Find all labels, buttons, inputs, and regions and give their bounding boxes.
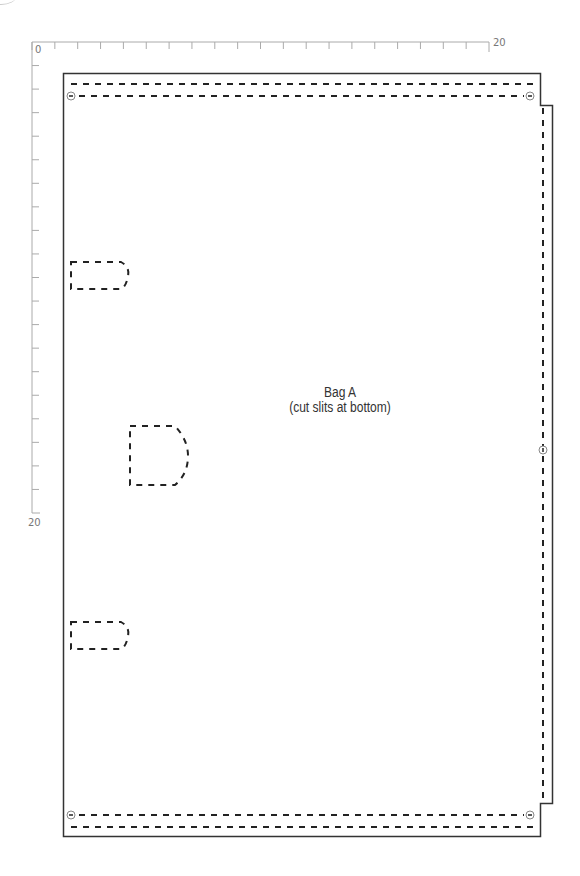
pattern-outline bbox=[64, 74, 553, 837]
bottom-stitch-lines bbox=[71, 815, 534, 827]
pattern-label: Bag A (cut slits at bottom) bbox=[271, 385, 409, 415]
ruler-h-end-label: 20 bbox=[493, 38, 506, 48]
marker-top-left-icon bbox=[67, 92, 75, 100]
pattern-canvas bbox=[0, 0, 580, 876]
placement-markers bbox=[67, 92, 547, 819]
pattern-title: Bag A bbox=[271, 385, 409, 400]
marker-top-right-icon bbox=[526, 92, 534, 100]
lower-small-slot bbox=[71, 622, 128, 649]
top-stitch-lines bbox=[71, 84, 534, 96]
horizontal-ruler bbox=[32, 42, 489, 52]
vertical-ruler bbox=[32, 42, 40, 513]
pattern-subtitle: (cut slits at bottom) bbox=[271, 400, 409, 415]
middle-large-slot bbox=[130, 426, 188, 485]
marker-right-middle-icon bbox=[539, 446, 547, 454]
upper-small-slot bbox=[71, 262, 128, 289]
marker-bottom-left-icon bbox=[67, 811, 75, 819]
marker-bottom-right-icon bbox=[526, 811, 534, 819]
ruler-h-start-label: 0 bbox=[35, 45, 41, 55]
ruler-v-end-label: 20 bbox=[28, 518, 41, 528]
